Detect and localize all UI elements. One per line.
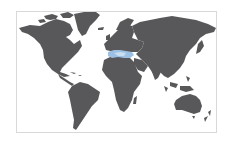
new-zealand — [204, 110, 211, 122]
india — [150, 64, 162, 80]
southeast-asia-islands — [164, 76, 194, 92]
south-america — [68, 82, 100, 130]
australia — [174, 94, 202, 114]
british-isles — [98, 27, 110, 40]
tasmania — [192, 116, 195, 119]
caribbean — [70, 72, 82, 76]
madagascar — [133, 96, 137, 104]
greenland — [74, 12, 100, 36]
world-map — [0, 0, 233, 142]
north-america — [19, 19, 82, 77]
